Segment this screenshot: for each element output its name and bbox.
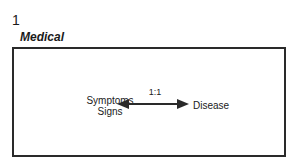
figure-number: 1	[12, 13, 20, 27]
double-arrow-icon	[117, 98, 189, 110]
figure-title: Medical	[20, 31, 64, 43]
relation-label: 1:1	[140, 87, 170, 98]
disease-node: Disease	[193, 100, 229, 111]
